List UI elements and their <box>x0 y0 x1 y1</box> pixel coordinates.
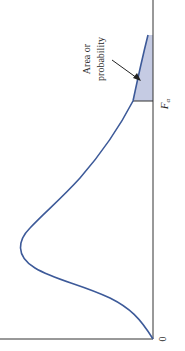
annotation-line2: probability <box>95 37 106 81</box>
annotation-line1: Area or <box>81 43 92 74</box>
f-alpha-subscript: α <box>164 98 172 102</box>
annotation-arrow <box>112 60 137 78</box>
f-alpha-label: Fα <box>158 98 172 110</box>
shaded-tail-area <box>133 35 153 101</box>
origin-label: 0 <box>157 337 168 342</box>
density-curve <box>20 35 153 339</box>
f-distribution-chart: Area or probability 0 Fα <box>0 0 185 351</box>
